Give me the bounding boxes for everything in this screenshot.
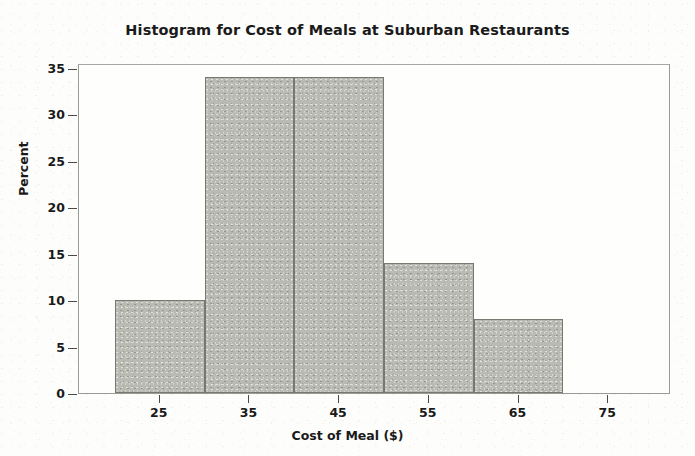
chart-title: Histogram for Cost of Meals at Suburban … xyxy=(0,22,695,38)
x-axis-tick-label: 35 xyxy=(226,405,270,420)
y-axis-tick-mark xyxy=(68,301,77,302)
x-axis-tick-mark xyxy=(159,395,160,403)
y-axis-tick-label: 10 xyxy=(48,293,65,309)
x-axis-tick-mark xyxy=(338,395,339,403)
y-axis-tick-mark xyxy=(68,394,77,395)
y-axis-tick-mark xyxy=(68,115,77,116)
y-axis-tick-mark xyxy=(68,348,77,349)
x-axis-tick-label: 65 xyxy=(496,405,540,420)
x-axis-tick-mark xyxy=(518,395,519,403)
histogram-bar xyxy=(294,77,384,393)
x-axis-tick-label: 55 xyxy=(406,405,450,420)
histogram-bar xyxy=(384,263,474,393)
y-axis-tick-mark xyxy=(68,208,77,209)
x-axis-tick-label: 75 xyxy=(585,405,629,420)
histogram-figure: Histogram for Cost of Meals at Suburban … xyxy=(0,0,695,456)
x-axis-tick-label: 45 xyxy=(316,405,360,420)
x-axis-tick-mark xyxy=(428,395,429,403)
y-axis-tick-mark xyxy=(68,255,77,256)
plot-area xyxy=(78,64,670,394)
y-axis-tick-label: 35 xyxy=(48,61,65,77)
x-axis-tick-mark xyxy=(248,395,249,403)
y-axis-tick-label: 30 xyxy=(48,107,65,123)
y-axis-tick-label: 0 xyxy=(56,386,65,402)
histogram-bar xyxy=(115,300,205,393)
x-axis-tick-mark xyxy=(607,395,608,403)
y-axis-tick-label: 15 xyxy=(48,247,65,263)
y-axis-tick-mark xyxy=(68,162,77,163)
y-axis-title: Percent xyxy=(16,141,31,196)
bars-layer xyxy=(79,65,669,393)
y-axis-tick-label: 20 xyxy=(48,200,65,216)
x-axis-tick-label: 25 xyxy=(137,405,181,420)
x-axis-title: Cost of Meal ($) xyxy=(0,428,695,443)
y-axis-tick-label: 5 xyxy=(56,340,65,356)
y-axis-tick-label: 25 xyxy=(48,154,65,170)
histogram-bar xyxy=(474,319,564,393)
histogram-bar xyxy=(205,77,295,393)
y-axis-tick-mark xyxy=(68,69,77,70)
